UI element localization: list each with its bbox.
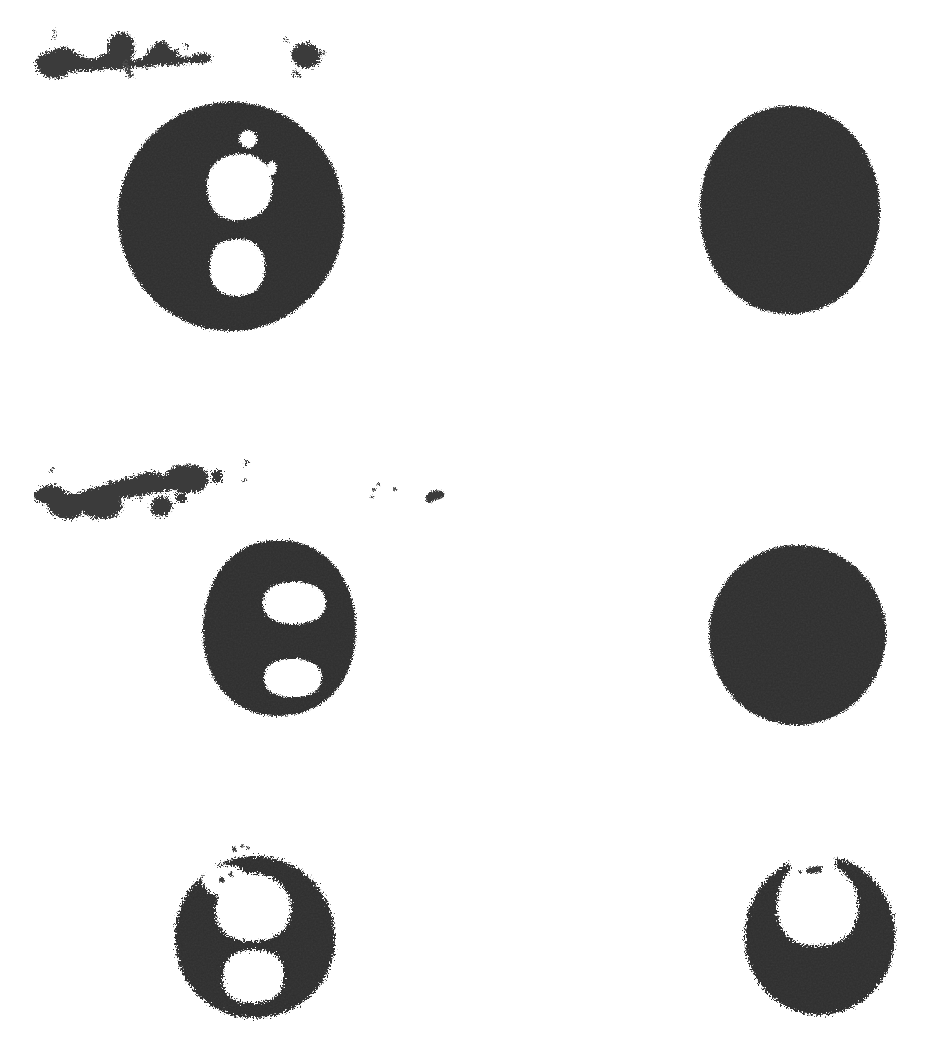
blob-bottom-left-disc <box>160 840 350 1035</box>
blob-bottom-right-disc <box>735 845 905 1025</box>
blob-top-right-disc <box>685 90 900 330</box>
blob-middle-left-disc <box>190 525 370 730</box>
scan-canvas <box>0 0 943 1040</box>
blob-top-left-disc <box>100 85 365 350</box>
blob-middle-right-disc <box>695 530 900 740</box>
scanned-figure-page: Thresholded black-and-white scan showing… <box>0 0 943 1040</box>
